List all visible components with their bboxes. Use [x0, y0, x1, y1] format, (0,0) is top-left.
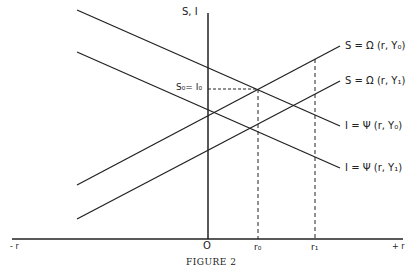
label-S0: S = Ω (r, Y₀) [345, 40, 405, 51]
r1-tick-label: r₁ [311, 242, 318, 252]
x-neg-label: - r [10, 242, 19, 251]
label-I1: I = Ψ (r, Y₁) [345, 162, 402, 173]
label-I0: I = Ψ (r, Y₀) [345, 120, 402, 131]
r0-tick-label: r₀ [254, 242, 261, 252]
label-S1: S = Ω (r, Y₁) [345, 75, 405, 86]
equilibrium-label: S₀= I₀ [176, 82, 202, 92]
y-axis-label: S, I [182, 6, 198, 17]
origin-label: O [203, 240, 211, 251]
figure-caption: FIGURE 2 [186, 257, 237, 267]
x-pos-label: + r [392, 242, 405, 251]
